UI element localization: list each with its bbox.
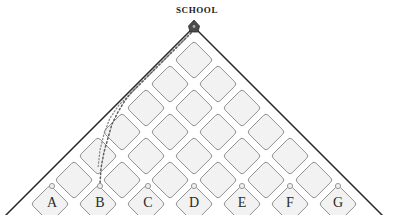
column-label-f: F — [280, 196, 300, 210]
column-label-c: C — [138, 196, 158, 210]
column-label-d: D — [184, 196, 204, 210]
column-label-b: B — [90, 196, 110, 210]
column-node-dots — [49, 183, 340, 188]
node-dot-c — [145, 183, 150, 188]
campus-map-canvas — [0, 0, 394, 215]
node-dot-b — [97, 183, 102, 188]
school-map-figure: SCHOOL — [0, 0, 394, 215]
node-dot-g — [335, 183, 340, 188]
node-dot-d — [191, 183, 196, 188]
school-pin-icon — [189, 20, 200, 32]
node-dot-a — [49, 183, 54, 188]
column-label-a: A — [42, 196, 62, 210]
column-label-e: E — [232, 196, 252, 210]
node-dot-e — [239, 183, 244, 188]
node-dot-f — [287, 183, 292, 188]
column-label-g: G — [328, 196, 348, 210]
